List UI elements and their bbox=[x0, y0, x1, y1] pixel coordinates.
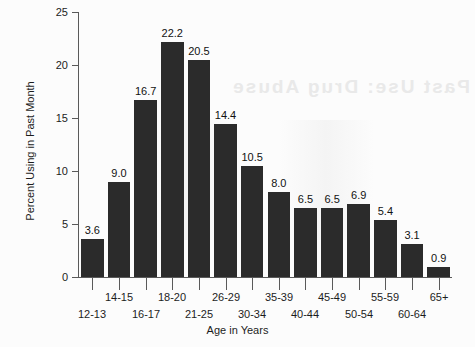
x-axis-line bbox=[78, 277, 452, 278]
bar-slot: 6.9 bbox=[345, 12, 372, 277]
x-tick-mark bbox=[332, 278, 333, 290]
bar-slot: 8.0 bbox=[266, 12, 293, 277]
x-tick-mark bbox=[305, 278, 306, 290]
bar-slot: 0.9 bbox=[425, 12, 452, 277]
x-tick-mark bbox=[199, 278, 200, 290]
bar-slot: 10.5 bbox=[239, 12, 266, 277]
bar-slot: 6.5 bbox=[292, 12, 319, 277]
bar-slot: 3.1 bbox=[399, 12, 426, 277]
x-tick-mark bbox=[92, 278, 93, 290]
bar-slot: 9.0 bbox=[106, 12, 133, 277]
bar-slot: 6.5 bbox=[319, 12, 346, 277]
x-tick-mark bbox=[359, 278, 360, 290]
plot-area: 3.69.016.722.220.514.410.58.06.56.56.95.… bbox=[79, 12, 452, 277]
bar bbox=[134, 100, 157, 277]
bar bbox=[374, 220, 397, 277]
x-tick-mark bbox=[385, 278, 386, 290]
bar-chart-figure: Past Use: Drug Abuse 0510152025 Percent … bbox=[0, 0, 475, 347]
x-tick-label: 60-64 bbox=[377, 309, 447, 320]
x-tick-mark bbox=[119, 278, 120, 290]
bar-value-label: 0.9 bbox=[416, 253, 461, 264]
bar-slot: 20.5 bbox=[186, 12, 213, 277]
x-tick-mark bbox=[439, 278, 440, 290]
bar bbox=[321, 208, 344, 277]
x-tick-label: 65+ bbox=[404, 292, 474, 303]
bar bbox=[294, 208, 317, 277]
x-tick-mark bbox=[146, 278, 147, 290]
bar bbox=[108, 182, 131, 277]
y-tick-mark bbox=[72, 65, 78, 66]
bar bbox=[81, 239, 104, 277]
y-tick-label: 0 bbox=[22, 272, 68, 283]
bar-slot: 16.7 bbox=[132, 12, 159, 277]
x-tick-mark bbox=[412, 278, 413, 290]
bar bbox=[161, 42, 184, 277]
bar bbox=[188, 60, 211, 277]
bar bbox=[214, 124, 237, 277]
y-tick-label: 25 bbox=[22, 7, 68, 18]
bar-slot: 14.4 bbox=[212, 12, 239, 277]
x-tick-mark bbox=[279, 278, 280, 290]
bar bbox=[427, 267, 450, 277]
bar-slot: 3.6 bbox=[79, 12, 106, 277]
x-tick-mark bbox=[226, 278, 227, 290]
y-tick-mark bbox=[72, 118, 78, 119]
y-tick-mark bbox=[72, 12, 78, 13]
x-tick-mark bbox=[252, 278, 253, 290]
x-tick-mark bbox=[172, 278, 173, 290]
y-tick-mark bbox=[72, 171, 78, 172]
y-axis-title: Percent Using in Past Month bbox=[24, 41, 36, 261]
x-axis-title: Age in Years bbox=[0, 324, 475, 336]
